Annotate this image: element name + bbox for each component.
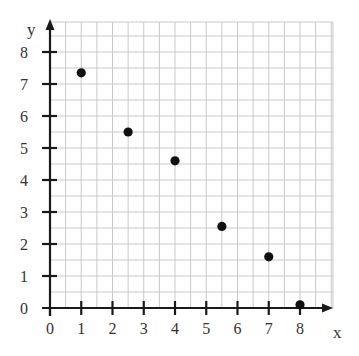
x-tick-label: 3 [140,320,148,337]
y-tick-label: 0 [20,300,28,317]
x-tick-label: 8 [296,320,304,337]
axes [42,19,333,316]
data-point [170,156,179,165]
y-axis-label: y [27,20,36,39]
y-tick-label: 3 [20,204,28,221]
x-tick-label: 7 [265,320,273,337]
y-tick-label: 8 [20,44,28,61]
y-tick-label: 6 [20,108,28,125]
scatter-chart: 012345678012345678 x y [0,0,359,356]
y-tick-label: 7 [20,76,28,93]
y-tick-label: 2 [20,236,28,253]
y-tick-label: 5 [20,140,28,157]
data-point [295,300,304,309]
x-tick-label: 6 [234,320,242,337]
x-axis-label: x [333,323,342,342]
grid-lines [50,22,333,308]
data-point [124,127,133,136]
y-tick-label: 4 [20,172,28,189]
x-tick-label: 2 [109,320,117,337]
x-tick-label: 0 [46,320,54,337]
data-point [264,252,273,261]
y-axis-arrowhead-icon [46,19,55,30]
x-tick-label: 1 [77,320,85,337]
y-tick-label: 1 [20,268,28,285]
x-tick-label: 4 [171,320,179,337]
data-point [77,68,86,77]
tick-labels: 012345678012345678 [20,44,304,337]
data-point [217,222,226,231]
x-tick-label: 5 [202,320,210,337]
